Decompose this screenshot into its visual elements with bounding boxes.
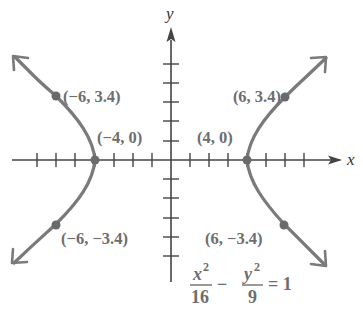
y-axis-label: y	[164, 4, 174, 23]
eq-den1: 16	[191, 287, 209, 307]
hyperbola-figure: x y	[0, 0, 363, 322]
label-4-0: (4, 0)	[197, 128, 233, 147]
x-axis: x	[12, 150, 355, 169]
eq-num2: y	[242, 264, 253, 284]
point-neg4-0	[91, 156, 100, 165]
point-6-3.4	[281, 93, 290, 102]
x-axis-label: x	[346, 150, 355, 169]
eq-den2: 9	[248, 287, 257, 307]
label-neg4-0: (−4, 0)	[97, 128, 142, 147]
label-neg6-3.4: (−6, 3.4)	[63, 87, 121, 106]
eq-num1: x	[192, 264, 202, 284]
eq-minus: −	[217, 274, 227, 294]
label-6-3.4: (6, 3.4)	[233, 87, 281, 106]
equation: x 2 16 − y 2 9 = 1	[190, 260, 292, 307]
point-neg6-neg3.4	[52, 221, 61, 230]
label-neg6-neg3.4: (−6, −3.4)	[61, 229, 128, 248]
label-6-neg3.4: (6, −3.4)	[205, 229, 263, 248]
y-axis-arrow-icon	[167, 27, 176, 42]
point-neg6-3.4	[52, 92, 61, 101]
point-4-0	[243, 156, 252, 165]
eq-exp2: 2	[254, 260, 260, 274]
y-axis: y	[163, 4, 179, 282]
point-6-neg3.4	[280, 221, 289, 230]
eq-rhs: = 1	[268, 274, 292, 294]
eq-exp1: 2	[203, 260, 209, 274]
